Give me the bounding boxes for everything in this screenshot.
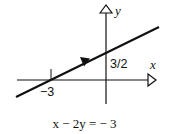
y-axis-label: y [113,3,121,18]
y-axis-arrow-icon [100,5,112,13]
x-intercept-label: −3 [40,85,54,99]
equation-caption: x − 2y = − 3 [52,116,116,131]
x-axis-arrow-icon [148,74,156,86]
line-graph-figure: y x 3/2 −3 x − 2y = − 3 [0,0,169,134]
x-axis-label: x [149,57,156,72]
y-intercept-label: 3/2 [110,57,127,71]
plotted-line [16,27,159,97]
graph-canvas: y x 3/2 −3 x − 2y = − 3 [0,0,169,134]
